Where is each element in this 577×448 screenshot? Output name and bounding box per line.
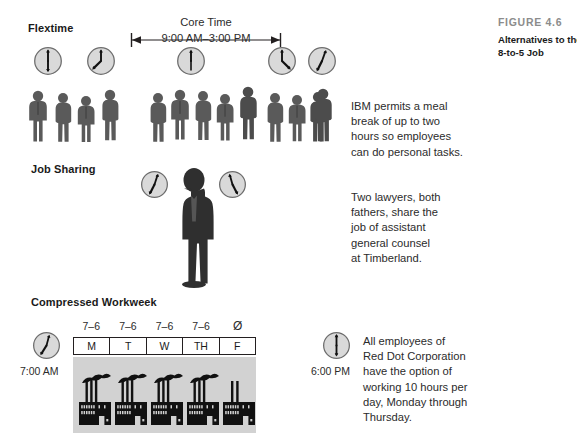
- factory-icon-mon: [79, 374, 111, 425]
- workweek-day-table: M T W TH F: [73, 337, 256, 355]
- people-group-flextime-1: [26, 86, 134, 142]
- clock-face-flextime-3: [176, 46, 206, 76]
- person-silhouette: [268, 93, 284, 142]
- callout-job-sharing-line-2: fathers, share the: [351, 205, 501, 220]
- figure-caption: FIGURE 4.6 Alternatives to the 8-to-5 Jo…: [498, 16, 576, 59]
- factory-icon-tue: [115, 374, 147, 425]
- core-time-range: 9:00 AM–3:00 PM: [130, 32, 282, 44]
- callout-flextime: IBM permits a meal break of up to two ho…: [351, 99, 501, 160]
- figure-title: Alternatives to the 8-to-5 Job: [498, 34, 576, 59]
- factory-icon-wed: [151, 374, 183, 425]
- section-title-compressed-workweek: Compressed Workweek: [31, 296, 157, 308]
- workweek-hours-wed: 7–6: [146, 320, 183, 332]
- callout-flextime-line-2: break of up to two: [351, 114, 501, 129]
- workweek-day-cell-tue: T: [110, 338, 146, 354]
- figure-number: FIGURE 4.6: [498, 16, 576, 28]
- workweek-hours-thu: 7–6: [183, 320, 220, 332]
- callout-workweek-line-3: have the option of: [363, 364, 528, 379]
- person-silhouette: [78, 96, 95, 142]
- person-silhouette: [217, 94, 234, 140]
- factory-row: [73, 357, 256, 433]
- callout-workweek-line-2: Red Dot Corporation: [363, 349, 528, 364]
- person-silhouette-suit: [168, 168, 220, 290]
- callout-workweek-line-5: day, Monday through: [363, 395, 528, 410]
- workweek-day-cell-fri: F: [220, 338, 255, 354]
- callout-workweek-line-1: All employees of: [363, 334, 528, 349]
- clock-face-flextime-5: [307, 46, 337, 76]
- callout-job-sharing-line-5: at Timberland.: [351, 251, 501, 266]
- clock-face-job-sharing-left: [140, 170, 169, 199]
- figure-title-line-2: 8-to-5 Job: [498, 47, 576, 60]
- callout-workweek-line-6: Thursday.: [363, 410, 528, 425]
- people-group-flextime-4: [309, 84, 337, 142]
- clock-face-flextime-4: [267, 46, 297, 76]
- callout-flextime-line-1: IBM permits a meal: [351, 99, 501, 114]
- clock-face-workweek-start: [32, 331, 61, 360]
- people-group-flextime-2: [147, 84, 265, 142]
- person-silhouette: [196, 91, 212, 140]
- clock-face-flextime-1: [33, 46, 63, 76]
- person-silhouette: [102, 90, 118, 140]
- clock-face-job-sharing-right: [218, 170, 247, 199]
- workweek-start-time: 7:00 AM: [20, 365, 59, 377]
- person-silhouette: [240, 87, 257, 140]
- person-silhouette: [56, 93, 72, 142]
- factory-icon-thu: [187, 374, 219, 425]
- figure-container: FIGURE 4.6 Alternatives to the 8-to-5 Jo…: [0, 0, 577, 448]
- callout-workweek-line-4: working 10 hours per: [363, 380, 528, 395]
- section-title-job-sharing: Job Sharing: [31, 163, 96, 175]
- person-silhouette: [171, 90, 189, 140]
- core-time-label: Core Time: [130, 16, 282, 28]
- callout-job-sharing-line-3: job of assistant: [351, 220, 501, 235]
- workweek-day-cell-mon: M: [74, 338, 110, 354]
- workweek-end-time: 6:00 PM: [311, 365, 350, 377]
- person-silhouette: [151, 93, 167, 142]
- workweek-hours-fri: Ø: [219, 319, 256, 333]
- workweek-hours-tue: 7–6: [110, 320, 147, 332]
- figure-title-line-1: Alternatives to the: [498, 34, 576, 47]
- person-silhouette: [315, 89, 332, 142]
- callout-compressed-workweek: All employees of Red Dot Corporation hav…: [363, 334, 528, 425]
- callout-job-sharing-line-4: general counsel: [351, 236, 501, 251]
- callout-flextime-line-3: hours so employees: [351, 129, 501, 144]
- person-silhouette: [289, 95, 306, 141]
- callout-flextime-line-4: can do personal tasks.: [351, 145, 501, 160]
- workweek-hours-mon: 7–6: [73, 320, 110, 332]
- workweek-factory-panel: [73, 357, 256, 433]
- workweek-day-cell-thu: TH: [183, 338, 219, 354]
- callout-job-sharing: Two lawyers, both fathers, share the job…: [351, 190, 501, 266]
- factory-icon-fri: [223, 381, 255, 425]
- core-time-bracket: Core Time 9:00 AM–3:00 PM: [130, 16, 282, 28]
- person-silhouette: [29, 91, 47, 142]
- clock-face-workweek-end: [322, 331, 351, 360]
- workweek-day-cell-wed: W: [147, 338, 183, 354]
- clock-face-flextime-2: [86, 46, 116, 76]
- callout-job-sharing-line-1: Two lawyers, both: [351, 190, 501, 205]
- section-title-flextime: Flextime: [28, 22, 73, 34]
